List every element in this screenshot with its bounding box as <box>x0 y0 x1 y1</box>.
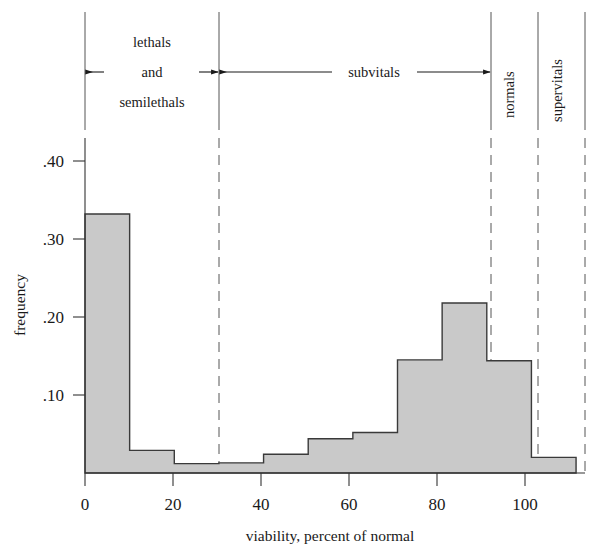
histogram-bars <box>85 214 576 473</box>
histogram-area <box>85 214 576 473</box>
y-axis-ticks: .40 .30 .20 .10 <box>43 152 85 405</box>
histogram-svg: lethals and semilethals subvitals normal… <box>0 0 594 551</box>
region-label-subvitals: subvitals <box>348 64 400 80</box>
x-tick-label-40: 40 <box>253 495 270 514</box>
x-tick-label-80: 80 <box>429 495 446 514</box>
region-label-normals: normals <box>501 71 517 118</box>
y-tick-label-40: .40 <box>43 152 64 171</box>
y-tick-label-30: .30 <box>43 230 64 249</box>
x-tick-label-60: 60 <box>341 495 358 514</box>
x-tick-label-20: 20 <box>165 495 182 514</box>
region-label-lethals-line3: semilethals <box>119 94 185 110</box>
x-axis-ticks: 0 20 40 60 80 100 <box>81 473 538 514</box>
region-label-lethals-line2: and <box>142 64 164 80</box>
x-axis-title: viability, percent of normal <box>246 527 415 544</box>
x-tick-label-0: 0 <box>81 495 90 514</box>
region-label-lethals-line1: lethals <box>133 34 171 50</box>
x-tick-label-100: 100 <box>512 495 538 514</box>
y-tick-label-10: .10 <box>43 386 64 405</box>
region-label-supervitals: supervitals <box>549 59 565 122</box>
y-axis-title: frequency <box>11 274 28 336</box>
histogram-figure: lethals and semilethals subvitals normal… <box>0 0 594 551</box>
y-tick-label-20: .20 <box>43 308 64 327</box>
